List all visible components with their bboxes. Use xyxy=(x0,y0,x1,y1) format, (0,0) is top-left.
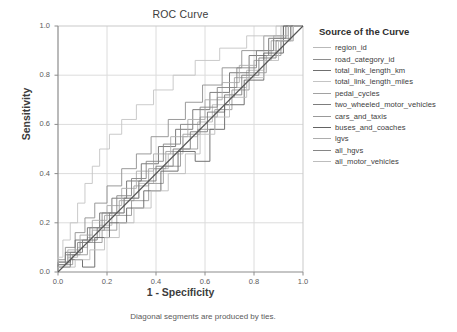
legend-color-swatch xyxy=(313,104,331,105)
legend-color-swatch xyxy=(313,70,331,71)
legend-item-label: road_category_id xyxy=(335,55,394,64)
legend-item[interactable]: road_category_id xyxy=(313,53,457,64)
legend-color-swatch xyxy=(313,59,331,60)
legend-item-label: all_hgvs xyxy=(335,146,363,155)
legend: Source of the Curve region_idroad_catego… xyxy=(313,26,457,167)
y-tick-label: 0.4 xyxy=(28,169,50,178)
legend-item[interactable]: all_hgvs xyxy=(313,145,457,156)
x-tick-label: 0.4 xyxy=(144,277,168,286)
legend-item[interactable]: total_link_length_miles xyxy=(313,76,457,87)
legend-color-swatch xyxy=(313,47,331,48)
legend-item[interactable]: cars_and_taxis xyxy=(313,110,457,121)
legend-items: region_idroad_category_idtotal_link_leng… xyxy=(313,42,457,167)
legend-item[interactable]: two_wheeled_motor_vehicles xyxy=(313,99,457,110)
legend-item-label: buses_and_coaches xyxy=(335,123,406,132)
legend-item-label: cars_and_taxis xyxy=(335,112,387,121)
legend-color-swatch xyxy=(313,93,331,94)
legend-color-swatch xyxy=(313,150,331,151)
legend-item[interactable]: lgvs xyxy=(313,133,457,144)
legend-item[interactable]: buses_and_coaches xyxy=(313,122,457,133)
legend-item-label: region_id xyxy=(335,43,367,52)
legend-item[interactable]: pedal_cycles xyxy=(313,88,457,99)
y-tick-label: 0.6 xyxy=(28,119,50,128)
y-tick-label: 0.8 xyxy=(28,70,50,79)
y-tick-label: 0.0 xyxy=(28,267,50,276)
legend-item[interactable]: total_link_length_km xyxy=(313,65,457,76)
x-tick-label: 0.8 xyxy=(242,277,266,286)
y-axis-label: Sensitivity xyxy=(20,69,32,159)
legend-color-swatch xyxy=(313,161,331,162)
legend-item[interactable]: region_id xyxy=(313,42,457,53)
x-axis-label: 1 - Specificity xyxy=(58,286,303,298)
legend-item-label: lgvs xyxy=(335,134,349,143)
legend-title: Source of the Curve xyxy=(319,26,457,37)
legend-color-swatch xyxy=(313,138,331,139)
x-tick-label: 0.2 xyxy=(95,277,119,286)
reference-diagonal-line xyxy=(58,26,303,272)
y-tick-label: 1.0 xyxy=(28,21,50,30)
x-tick-label: 0.0 xyxy=(46,277,70,286)
legend-item-label: pedal_cycles xyxy=(335,89,380,98)
x-tick-label: 0.6 xyxy=(193,277,217,286)
legend-item-label: total_link_length_miles xyxy=(335,77,413,86)
roc-curve-chart: ROC Curve Sensitivity 1 - Specificity Di… xyxy=(0,0,457,332)
legend-item-label: two_wheeled_motor_vehicles xyxy=(335,100,436,109)
chart-footnote: Diagonal segments are produced by ties. xyxy=(58,312,348,321)
legend-color-swatch xyxy=(313,127,331,128)
x-tick-label: 1.0 xyxy=(291,277,315,286)
y-tick-label: 0.2 xyxy=(28,218,50,227)
legend-color-swatch xyxy=(313,81,331,82)
legend-color-swatch xyxy=(313,116,331,117)
legend-item-label: total_link_length_km xyxy=(335,66,405,75)
legend-item-label: all_motor_vehicles xyxy=(335,157,399,166)
legend-item[interactable]: all_motor_vehicles xyxy=(313,156,457,167)
